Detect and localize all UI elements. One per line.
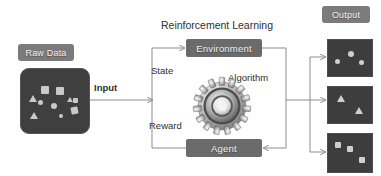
output-shape-circle (359, 60, 364, 65)
data-shape-circle (51, 103, 57, 109)
data-shape-circle (59, 114, 63, 118)
data-shape-square (41, 86, 49, 94)
edge-output-1 (286, 57, 325, 100)
data-shape-circle (38, 100, 43, 105)
output-label: Output (322, 6, 370, 23)
node-agent[interactable]: Agent (186, 139, 262, 157)
edge-label-state: State (151, 65, 173, 76)
output-shape-circle (348, 51, 354, 57)
output-shape-square (359, 157, 365, 163)
output-panel-triangles (327, 86, 373, 124)
raw-data-panel (20, 68, 90, 134)
raw-data-label: Raw Data (18, 44, 74, 61)
edge-label-input: Input (94, 82, 117, 93)
output-panel-circles (327, 39, 373, 77)
output-panel-squares (327, 133, 373, 173)
gear-icon (191, 76, 253, 136)
data-shape-square (56, 87, 64, 95)
diagram-title: Reinforcement Learning (152, 19, 282, 31)
data-shape-square (70, 106, 78, 114)
output-shape-square (347, 146, 353, 152)
data-shape-square (73, 98, 78, 103)
output-shape-triangle (355, 107, 363, 114)
output-shape-square (335, 142, 341, 148)
data-shape-triangle (30, 112, 38, 119)
diagram-canvas: Raw Data Input Reinforcement Learning En… (0, 0, 381, 176)
edge-env-to-agent (262, 48, 286, 148)
output-shape-triangle (337, 95, 345, 102)
node-environment[interactable]: Environment (186, 39, 262, 57)
data-shape-triangle (29, 95, 37, 102)
output-shape-circle (335, 59, 340, 64)
edge-output-3 (310, 100, 325, 152)
edge-label-reward: Reward (149, 120, 182, 131)
